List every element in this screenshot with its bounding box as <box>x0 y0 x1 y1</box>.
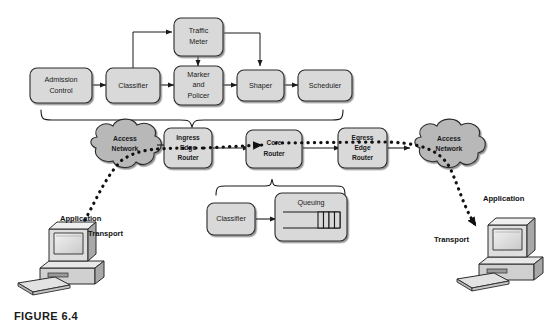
core-classifier-label: Classifier <box>216 214 246 223</box>
right-transport-label: Transport <box>434 235 469 244</box>
figure-container: Traffic Meter Admission Control Classifi… <box>0 0 550 331</box>
left-transport-label: Transport <box>88 229 123 238</box>
access-network-right-label-line1: Access <box>437 135 461 142</box>
queuing-box[interactable]: Queuing <box>275 193 347 241</box>
access-network-right-label-line2: Network <box>436 145 463 152</box>
egress-edge-router-label-line2: Edge <box>354 144 370 152</box>
traffic-meter-box[interactable]: Traffic Meter <box>174 18 223 56</box>
right-workstation[interactable] <box>457 218 543 291</box>
classifier-label: Classifier <box>118 81 148 90</box>
connector-classifier-to-traffic-meter <box>133 32 172 72</box>
traffic-meter-label-line1: Traffic <box>189 26 209 35</box>
core-router-box[interactable]: Core Router <box>246 130 302 168</box>
left-application-label: Application <box>60 214 102 223</box>
access-network-right-cloud[interactable]: Access Network <box>415 119 485 167</box>
right-application-label: Application <box>483 194 525 203</box>
admission-control-box[interactable]: Admission Control <box>30 68 92 103</box>
marker-and-policer-box[interactable]: Marker and Policer <box>174 66 223 105</box>
access-network-left-cloud[interactable]: Access Network <box>91 119 161 167</box>
scheduler-box[interactable]: Scheduler <box>298 70 352 101</box>
scheduler-label: Scheduler <box>309 81 342 90</box>
egress-edge-router-label-line1: Egress <box>352 134 374 142</box>
egress-edge-router-label-line3: Router <box>352 154 374 161</box>
core-router-label-line2: Router <box>263 150 285 157</box>
traffic-meter-label-line2: Meter <box>189 37 208 46</box>
core-router-label-line1: Core <box>266 139 281 146</box>
access-network-left-label-line1: Access <box>113 135 137 142</box>
ingress-edge-router-label-line1: Ingress <box>176 134 200 142</box>
marker-label-line1: Marker <box>187 70 210 79</box>
marker-label-line3: Policer <box>188 91 211 100</box>
egress-edge-router-box[interactable]: Egress Edge Router <box>338 128 387 168</box>
ingress-brace <box>41 110 343 127</box>
shaper-label: Shaper <box>249 81 273 90</box>
queuing-title: Queuing <box>297 198 324 207</box>
classifier-box[interactable]: Classifier <box>106 68 160 103</box>
marker-label-line2: and <box>193 80 205 89</box>
connector-traffic-meter-to-shaper <box>224 33 260 66</box>
ingress-edge-router-label-line3: Router <box>177 154 199 161</box>
admission-control-label-line2: Control <box>49 86 73 95</box>
admission-control-label-line1: Admission <box>44 75 77 84</box>
network-qos-diagram: Traffic Meter Admission Control Classifi… <box>0 0 550 331</box>
core-classifier-box[interactable]: Classifier <box>207 203 255 235</box>
access-network-left-label-line2: Network <box>112 145 139 152</box>
figure-caption: FIGURE 6.4 <box>14 310 78 322</box>
shaper-box[interactable]: Shaper <box>237 70 284 101</box>
